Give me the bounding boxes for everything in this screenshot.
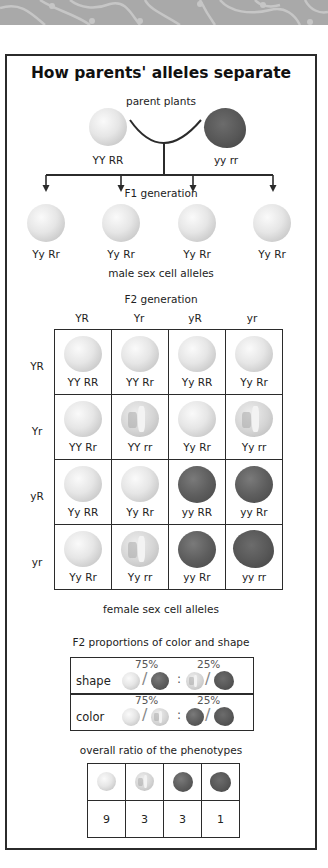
ratio-pea-cell [126, 764, 164, 801]
cell-genotype: Yy Rr [226, 376, 282, 388]
yellow-wrinkled-pea-icon [121, 401, 159, 437]
col-header-Yr: Yr [111, 312, 167, 324]
yellow-round-pea-icon [64, 336, 102, 372]
cell-genotype: Yy Rr [169, 441, 225, 453]
proportions-table: shape 75% 25% / : / color 75% 25% / : / [70, 657, 254, 731]
punnett-cell: Yy rr [226, 395, 283, 460]
ratio-pea-cell [202, 764, 240, 801]
cell-genotype: YY rr [112, 441, 168, 453]
green-wrinkled-pea-icon [233, 530, 274, 568]
punnett-cell: YY Rr [55, 395, 112, 460]
yellow-round-pea-icon [178, 336, 216, 372]
f1-pea-2-icon [102, 204, 140, 242]
colon-separator: : [177, 708, 181, 722]
row-header-yr: yr [23, 556, 51, 568]
diagram-frame: How parents' alleles separate parent pla… [5, 54, 317, 850]
punnett-cell: yy Rr [226, 460, 283, 525]
cell-genotype: Yy RR [55, 506, 111, 518]
yellow-round-pea-icon [64, 466, 102, 502]
shape-row-label: shape [76, 674, 111, 688]
green-round-pea-icon [178, 466, 216, 503]
f1-pea-3-icon [178, 204, 216, 242]
decorative-cell-pattern-banner [0, 0, 328, 25]
punnett-cell: Yy Rr [169, 395, 226, 460]
punnett-cell: yy RR [169, 460, 226, 525]
yellow-round-pea-icon [178, 401, 216, 437]
punnett-cell: Yy rr [112, 525, 169, 590]
yellow-wrinkled-pea-icon [135, 772, 154, 791]
f2-generation-label: F2 generation [7, 293, 315, 305]
yellow-round-pea-icon [122, 672, 140, 690]
f1-pea-4-icon [253, 204, 291, 242]
green-round-pea-icon [173, 772, 193, 792]
f1-genotype-3: Yy Rr [167, 248, 227, 260]
f1-pea-1-icon [27, 204, 65, 242]
yellow-round-pea-icon [64, 401, 102, 437]
row-header-yR: yR [23, 490, 51, 502]
green-round-pea-icon [235, 466, 273, 503]
row-header-Yr: Yr [23, 425, 51, 437]
ratio-count: 1 [202, 801, 240, 838]
cell-genotype: Yy RR [169, 376, 225, 388]
female-sex-cell-alleles-label: female sex cell alleles [7, 603, 315, 615]
green-wrinkled-pea-icon [210, 772, 231, 792]
punnett-cell: YY rr [112, 395, 169, 460]
cell-genotype: Yy rr [226, 441, 282, 453]
slash-separator: / [142, 669, 147, 688]
cell-genotype: YY RR [55, 376, 111, 388]
slash-separator: / [142, 705, 147, 724]
cell-genotype: Yy rr [112, 571, 168, 583]
f1-genotype-2: Yy Rr [91, 248, 151, 260]
cell-genotype: yy rr [226, 571, 282, 583]
cell-genotype: yy RR [169, 506, 225, 518]
overall-ratio-title: overall ratio of the phenotypes [7, 744, 315, 756]
yellow-wrinkled-pea-icon [121, 531, 159, 567]
punnett-cell: Yy RR [169, 330, 226, 395]
cell-genotype: yy Rr [226, 506, 282, 518]
f1-generation-label: F1 generation [7, 187, 315, 199]
green-round-pea-icon [178, 531, 216, 568]
yellow-round-pea-icon [122, 708, 140, 726]
yellow-round-pea-icon [235, 336, 273, 372]
colon-separator: : [177, 672, 181, 686]
punnett-cell: Yy Rr [226, 330, 283, 395]
yellow-round-pea-icon [121, 466, 159, 502]
yellow-wrinkled-pea-icon [186, 672, 204, 690]
green-round-pea-icon [186, 708, 204, 726]
punnett-cell: Yy Rr [55, 525, 112, 590]
cell-pattern-icon [0, 0, 328, 25]
proportions-divider [71, 693, 253, 695]
punnett-cell: yy rr [226, 525, 283, 590]
col-header-yr: yr [224, 312, 280, 324]
punnett-cell: Yy RR [55, 460, 112, 525]
cell-genotype: yy Rr [169, 571, 225, 583]
ratio-count: 3 [126, 801, 164, 838]
cell-genotype: Yy Rr [112, 506, 168, 518]
ratio-pea-cell [88, 764, 126, 801]
ratio-pea-cell [164, 764, 202, 801]
slash-separator: / [205, 705, 210, 724]
cell-genotype: YY Rr [55, 441, 111, 453]
punnett-cell: yy Rr [169, 525, 226, 590]
punnett-cell: YY Rr [112, 330, 169, 395]
green-wrinkled-pea-icon [214, 671, 234, 690]
punnett-cell: Yy Rr [112, 460, 169, 525]
f1-genotype-1: Yy Rr [16, 248, 76, 260]
ratio-count: 9 [88, 801, 126, 838]
col-header-yR: yR [167, 312, 223, 324]
green-wrinkled-pea-icon [214, 707, 234, 726]
phenotype-ratio-table: 9 3 3 1 [87, 763, 240, 838]
f2-proportions-title: F2 proportions of color and shape [7, 636, 315, 648]
color-row-label: color [76, 710, 104, 724]
yellow-wrinkled-pea-icon [235, 401, 273, 437]
green-round-pea-icon [151, 672, 169, 690]
yellow-round-pea-icon [97, 772, 116, 791]
cell-genotype: YY Rr [112, 376, 168, 388]
cross-lines-icon [7, 56, 315, 206]
col-header-YR: YR [54, 312, 110, 324]
yellow-round-pea-icon [64, 531, 102, 567]
f1-genotype-4: Yy Rr [242, 248, 302, 260]
yellow-round-pea-icon [121, 336, 159, 372]
ratio-count: 3 [164, 801, 202, 838]
male-sex-cell-alleles-label: male sex cell alleles [7, 267, 315, 279]
